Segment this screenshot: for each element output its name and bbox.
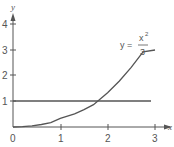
equation-exponent: 2 [145,31,149,37]
x-tick-2: 2 [105,133,111,144]
x-tick-1: 1 [58,133,64,144]
y-tick-1: 1 [2,96,8,107]
plot: 0 1 2 3 1 2 3 4 x y y = x 2 3 [0,0,174,147]
x-tick-3: 3 [152,133,158,144]
equation-numerator: x [139,33,144,43]
y-tick-2: 2 [2,70,8,81]
y-axis-arrow-icon [11,13,16,21]
equation-lhs: y = [120,40,132,50]
y-tick-4: 4 [2,19,8,30]
y-axis-label: y [10,2,15,12]
y-tick-3: 3 [2,45,8,56]
curve-x-squared-over-3 [13,50,155,127]
x-axis-label: x [167,122,172,132]
equation-denominator: 3 [140,47,145,57]
origin-label: 0 [10,133,16,144]
